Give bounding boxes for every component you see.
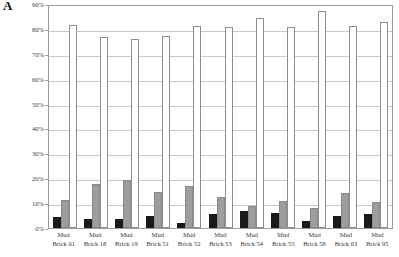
x-axis-label-line: Mud <box>268 231 299 240</box>
x-axis-label: MudBrick 52 <box>173 231 204 257</box>
bar-series-gray <box>217 197 225 228</box>
bar-series-gray <box>341 193 349 228</box>
y-axis-tick-label: 30% <box>32 151 44 158</box>
x-axis-label-line: Brick 53 <box>205 240 236 249</box>
bar-series-black <box>53 217 61 228</box>
bar-series-black <box>115 219 123 228</box>
bar-series-black <box>271 213 279 228</box>
bar-series-gray <box>279 201 287 228</box>
x-axis-label-line: Brick 18 <box>79 240 110 249</box>
x-axis-label: MudBrick 53 <box>205 231 236 257</box>
x-axis-label-line: Brick 55 <box>268 240 299 249</box>
bar-series-white <box>162 36 170 228</box>
x-axis-label-line: Mud <box>362 231 393 240</box>
x-axis-label-line: Brick 58 <box>299 240 330 249</box>
bar-group <box>205 6 236 228</box>
bar-series-white <box>69 25 77 229</box>
y-axis-tick-label: 90% <box>32 2 44 9</box>
x-axis-label-line: Brick 01 <box>48 240 79 249</box>
bar-series-gray <box>248 206 256 228</box>
x-axis-label-line: Mud <box>236 231 267 240</box>
x-axis-label-line: Mud <box>111 231 142 240</box>
x-axis-labels: MudBrick 01MudBrick 18MudBrick 19MudBric… <box>48 231 393 257</box>
bar-series-black <box>209 214 217 228</box>
bar-series-white <box>287 27 295 228</box>
bar-group <box>236 6 267 228</box>
bar-series-gray <box>92 184 100 228</box>
bar-groups <box>49 6 392 228</box>
bar-group <box>174 6 205 228</box>
bar-series-black <box>177 223 185 228</box>
x-axis-label-line: Brick 52 <box>173 240 204 249</box>
bar-series-white <box>100 37 108 228</box>
bar-series-black <box>302 221 310 228</box>
bar-series-white <box>318 11 326 228</box>
x-axis-label: MudBrick 54 <box>236 231 267 257</box>
bar-series-gray <box>123 180 131 228</box>
bar-series-gray <box>61 200 69 228</box>
bar-group <box>330 6 361 228</box>
bar-series-black <box>240 211 248 228</box>
bar-series-black <box>84 219 92 228</box>
x-axis-label-line: Mud <box>299 231 330 240</box>
bar-series-white <box>256 18 264 228</box>
bar-group <box>111 6 142 228</box>
y-axis-tick-label: 20% <box>32 176 44 183</box>
bar-series-white <box>193 26 201 228</box>
y-axis-tick-label: 80% <box>32 27 44 34</box>
x-axis-label-line: Mud <box>142 231 173 240</box>
x-axis-label-line: Mud <box>79 231 110 240</box>
plot-area <box>48 5 393 229</box>
bar-series-black <box>333 216 341 228</box>
x-axis-label: MudBrick 58 <box>299 231 330 257</box>
y-axis-tick-label: 10% <box>32 201 44 208</box>
x-axis-label-line: Mud <box>205 231 236 240</box>
chart-figure: A 0%10%20%30%40%50%60%70%80%90% MudBrick… <box>0 0 399 257</box>
x-axis-label-line: Brick 63 <box>330 240 361 249</box>
x-axis-label-line: Mud <box>330 231 361 240</box>
y-axis-tick-label: 70% <box>32 52 44 59</box>
y-axis-tick-label: 50% <box>32 101 44 108</box>
bar-group <box>80 6 111 228</box>
y-axis-tick-label: 40% <box>32 126 44 133</box>
x-axis-label-line: Mud <box>48 231 79 240</box>
x-axis-label-line: Brick 19 <box>111 240 142 249</box>
bar-series-black <box>146 216 154 228</box>
x-axis-label: MudBrick 51 <box>142 231 173 257</box>
bar-group <box>361 6 392 228</box>
x-axis-label-line: Mud <box>173 231 204 240</box>
bar-group <box>49 6 80 228</box>
y-axis-tick-label: 60% <box>32 76 44 83</box>
x-axis-label-line: Brick 54 <box>236 240 267 249</box>
bar-series-gray <box>185 186 193 228</box>
bar-series-white <box>225 27 233 228</box>
x-axis-label: MudBrick 19 <box>111 231 142 257</box>
y-axis-tick-mark <box>45 229 48 230</box>
bar-series-white <box>131 39 139 228</box>
bar-series-gray <box>372 202 380 228</box>
bar-series-white <box>380 22 388 228</box>
bar-group <box>299 6 330 228</box>
x-axis-label-line: Brick 51 <box>142 240 173 249</box>
bar-group <box>267 6 298 228</box>
x-axis-label: MudBrick 55 <box>268 231 299 257</box>
x-axis-label: MudBrick 01 <box>48 231 79 257</box>
y-axis-tick-label: 0% <box>35 226 44 233</box>
bar-series-white <box>349 26 357 228</box>
bar-series-gray <box>310 208 318 228</box>
y-axis: 0%10%20%30%40%50%60%70%80%90% <box>0 5 48 229</box>
x-axis-label-line: Brick 95 <box>362 240 393 249</box>
x-axis-label: MudBrick 18 <box>79 231 110 257</box>
bar-group <box>143 6 174 228</box>
bar-series-gray <box>154 192 162 228</box>
x-axis-label: MudBrick 63 <box>330 231 361 257</box>
bar-series-black <box>364 214 372 228</box>
x-axis-label: MudBrick 95 <box>362 231 393 257</box>
